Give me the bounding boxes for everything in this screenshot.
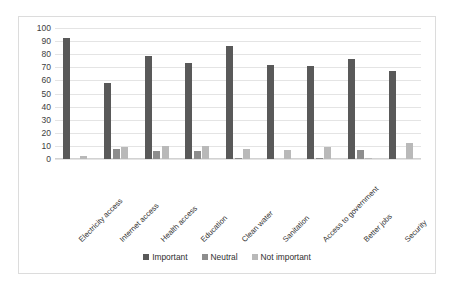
bar	[267, 65, 274, 159]
category-label: Sanitation	[281, 239, 286, 244]
bar	[324, 147, 331, 159]
bar-group	[55, 28, 96, 159]
bar	[104, 83, 111, 159]
legend-label: Neutral	[211, 253, 238, 261]
bar	[389, 71, 396, 159]
bar	[153, 151, 160, 159]
y-axis-tick-label: 20	[17, 129, 51, 138]
bar	[284, 150, 291, 159]
bar-group	[218, 28, 259, 159]
bar	[162, 146, 169, 159]
bar	[307, 66, 314, 159]
bar-group	[258, 28, 299, 159]
y-axis-tick-label: 80	[17, 50, 51, 59]
legend-swatch-icon	[252, 254, 258, 260]
bar-group	[340, 28, 381, 159]
y-axis-tick-label: 50	[17, 89, 51, 98]
bar-groups	[55, 28, 421, 159]
bar	[63, 38, 70, 159]
y-axis-tick-label: 0	[17, 155, 51, 164]
category-label: Education	[200, 239, 205, 244]
y-axis-tick-label: 70	[17, 63, 51, 72]
legend-swatch-icon	[202, 254, 208, 260]
legend-swatch-icon	[143, 254, 149, 260]
bar-group	[380, 28, 421, 159]
bar-group	[177, 28, 218, 159]
legend-item[interactable]: Not important	[252, 253, 311, 261]
y-axis-tick-label: 100	[17, 24, 51, 33]
bar	[145, 56, 152, 159]
bar	[185, 63, 192, 159]
legend-item[interactable]: Neutral	[202, 253, 238, 261]
bar	[243, 149, 250, 159]
y-axis-tick-label: 40	[17, 102, 51, 111]
y-axis-tick-label: 60	[17, 76, 51, 85]
plot-area: 0102030405060708090100	[55, 28, 421, 159]
category-label: Health access	[159, 239, 164, 244]
legend-label: Important	[152, 253, 187, 261]
category-label: Internet access	[119, 239, 124, 244]
category-label: Security	[403, 239, 408, 244]
chart-container: 0102030405060708090100 Electricity acces…	[18, 16, 436, 274]
category-axis-labels: Electricity accessInternet accessHealth …	[55, 159, 421, 244]
chart-legend: ImportantNeutralNot important	[19, 253, 435, 261]
bar	[406, 143, 413, 159]
category-label: Clean water	[241, 239, 246, 244]
category-label: Electricity access	[78, 239, 83, 244]
legend-item[interactable]: Important	[143, 253, 187, 261]
bar-group	[96, 28, 137, 159]
bar	[202, 146, 209, 159]
bar	[348, 59, 355, 159]
bar-group	[136, 28, 177, 159]
bar	[113, 149, 120, 159]
y-axis-tick-label: 10	[17, 142, 51, 151]
y-axis-tick-label: 90	[17, 37, 51, 46]
bar	[194, 151, 201, 159]
y-axis-tick-label: 30	[17, 115, 51, 124]
category-label: Better jobs	[363, 239, 368, 244]
legend-label: Not important	[261, 253, 311, 261]
category-label: Access to government	[322, 239, 327, 244]
bar	[226, 46, 233, 159]
bar-group	[299, 28, 340, 159]
bar	[357, 150, 364, 159]
bar	[121, 147, 128, 159]
